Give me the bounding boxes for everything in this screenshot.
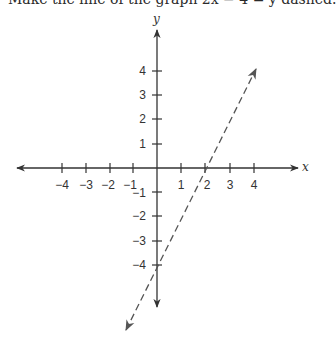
x-tick-label: 3 [227, 178, 234, 192]
y-tick-label: −1 [132, 186, 146, 200]
y-axis-label: y [152, 12, 160, 26]
y-tick-label: −2 [132, 209, 146, 223]
x-axis-label: x [302, 160, 309, 174]
x-tick-label: −4 [55, 178, 69, 192]
y-tick-label: 2 [139, 112, 146, 126]
x-tick-label: 1 [178, 178, 185, 192]
x-tick-label: −2 [101, 178, 115, 192]
x-tick-label: −3 [79, 178, 93, 192]
x-tick-label: 2 [204, 178, 211, 192]
y-tick-label: 1 [139, 137, 146, 151]
y-tick-label: −4 [132, 258, 146, 272]
y-tick-label: −3 [132, 234, 146, 248]
x-tick-label: 4 [251, 178, 258, 192]
y-tick-label: 4 [139, 64, 146, 78]
y-tick-label: 3 [139, 88, 146, 102]
